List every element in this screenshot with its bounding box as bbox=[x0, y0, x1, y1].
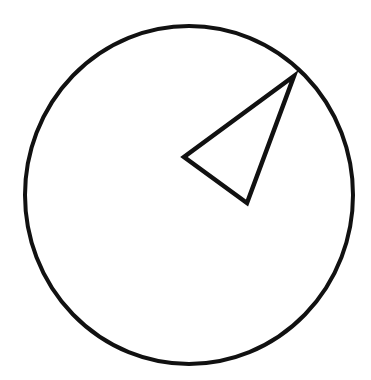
outer-circle bbox=[25, 26, 353, 364]
diagram-canvas bbox=[0, 0, 371, 380]
triangle-pointer bbox=[184, 76, 294, 203]
